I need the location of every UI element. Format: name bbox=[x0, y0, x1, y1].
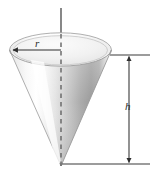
height-label: h bbox=[125, 101, 131, 112]
cone-figure: r h bbox=[0, 0, 167, 183]
cone-diagram-canvas bbox=[0, 0, 167, 183]
radius-label: r bbox=[35, 38, 39, 49]
